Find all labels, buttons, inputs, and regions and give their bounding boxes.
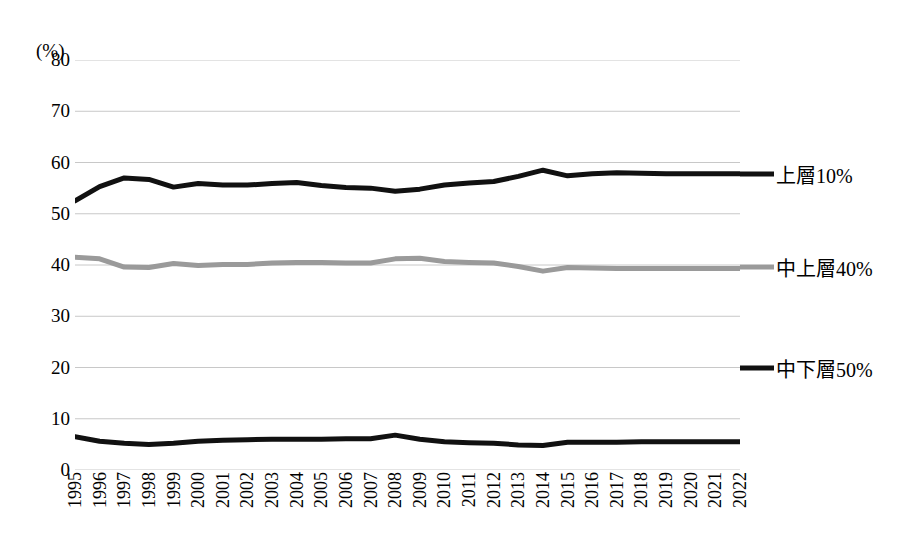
x-axis-tick-label: 2011 [460,472,478,507]
legend-item-1[interactable]: 上層10% [740,159,853,188]
x-axis-tick-label: 2000 [189,472,207,508]
x-axis-tick-label: 2013 [509,472,527,508]
x-axis-tick-label: 1996 [91,472,109,508]
x-axis-tick-label: 2019 [657,472,675,508]
y-axis-tick-label: 60 [24,152,70,174]
legend-item-3[interactable]: 中下層50% [740,353,873,382]
y-axis-tick-label: 50 [24,203,70,225]
y-axis-tick-label: 40 [24,254,70,276]
x-axis-tick-label: 2007 [362,472,380,508]
x-axis-tick-label: 2020 [682,472,700,508]
legend-label: 中上層40% [776,253,873,282]
y-axis-tick-label: 70 [24,100,70,122]
legend-swatch-icon [740,365,774,370]
legend-label: 上層10% [776,159,853,188]
x-axis-tick-label: 1995 [66,472,84,508]
y-axis-tick-label: 30 [24,305,70,327]
legend-label: 中下層50% [776,353,873,382]
series-line-2 [75,257,740,271]
legend-swatch-icon [740,265,774,270]
x-axis-tick-label: 2016 [583,472,601,508]
line-chart: (%) 01020304050607080 199519961997199819… [0,0,920,550]
x-axis-tick-label: 2005 [312,472,330,508]
x-axis-tick-label: 2018 [632,472,650,508]
x-axis-tick-label: 2010 [435,472,453,508]
y-axis: 01020304050607080 [20,0,70,550]
series-line-3 [75,435,740,445]
x-axis-tick-label: 2017 [608,472,626,508]
x-axis-tick-label: 2021 [706,472,724,508]
y-axis-tick-label: 20 [24,357,70,379]
x-axis-tick-label: 2015 [559,472,577,508]
x-axis-tick-label: 1997 [115,472,133,508]
x-axis-tick-label: 2004 [288,472,306,508]
x-axis: 1995199619971998199920002001200220032004… [75,470,740,550]
x-axis-tick-label: 2012 [485,472,503,508]
series-line-1 [75,170,740,201]
x-axis-tick-label: 2001 [214,472,232,508]
series-lines [75,170,740,445]
chart-legend: 上層10%中上層40%中下層50% [740,0,920,550]
x-axis-tick-label: 2014 [534,472,552,508]
x-axis-tick-label: 1998 [140,472,158,508]
x-axis-tick-label: 2003 [263,472,281,508]
plot-svg [75,60,740,470]
x-axis-tick-label: 1999 [165,472,183,508]
x-axis-tick-label: 2002 [238,472,256,508]
y-axis-tick-label: 0 [24,459,70,481]
x-axis-tick-label: 2008 [386,472,404,508]
x-axis-tick-label: 2006 [337,472,355,508]
x-axis-tick-label: 2009 [411,472,429,508]
plot-area [75,60,740,470]
y-axis-tick-label: 10 [24,408,70,430]
y-axis-tick-label: 80 [24,49,70,71]
legend-swatch-icon [740,171,774,176]
legend-item-2[interactable]: 中上層40% [740,253,873,282]
